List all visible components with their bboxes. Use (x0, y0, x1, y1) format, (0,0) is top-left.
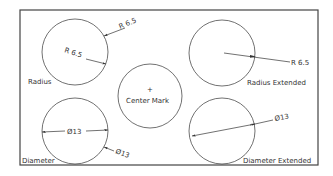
drawing-border (20, 10, 318, 165)
panel-diameter-extended: Ø13 Diameter Extended (189, 98, 311, 165)
radius-dim-inner: R 6.5 (63, 46, 83, 59)
diameter-extended-dim: Ø13 (274, 113, 290, 123)
circle-diameter-extended (189, 98, 255, 164)
diameter-dim-outer: Ø13 (114, 147, 130, 159)
dimension-diagram: R 6.5 R 6.5 Radius R 6.5 Radius Extended… (0, 0, 333, 176)
label-radius: Radius (28, 78, 52, 86)
radius-dim-outer: R 6.5 (118, 17, 138, 31)
label-diameter: Diameter (22, 157, 55, 165)
radius-extended-dim: R 6.5 (291, 59, 309, 67)
panel-diameter: Ø13 Ø13 Diameter (22, 98, 131, 165)
panel-radius: R 6.5 R 6.5 Radius (28, 17, 138, 86)
label-diameter-extended: Diameter Extended (243, 157, 311, 165)
panel-center-mark: + Center Mark (118, 64, 182, 128)
panel-radius-extended: R 6.5 Radius Extended (189, 20, 309, 87)
label-radius-extended: Radius Extended (247, 79, 306, 87)
circle-center-mark (118, 64, 182, 128)
circle-radius-extended (189, 20, 255, 86)
center-mark-symbol: + (147, 86, 153, 94)
label-center-mark: Center Mark (126, 97, 170, 105)
diameter-dim-inner: Ø13 (67, 128, 81, 136)
